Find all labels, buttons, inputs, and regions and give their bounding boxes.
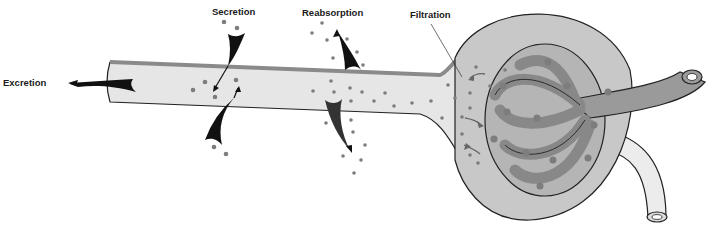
label-secretion: Secretion <box>212 6 255 17</box>
label-filtration: Filtration <box>410 9 451 20</box>
label-excretion: Excretion <box>3 77 46 88</box>
nephron-diagram: Excretion Secretion Reabsorption Filtrat… <box>0 0 718 227</box>
renal-tubule <box>107 56 462 160</box>
label-reabsorption: Reabsorption <box>302 7 363 18</box>
